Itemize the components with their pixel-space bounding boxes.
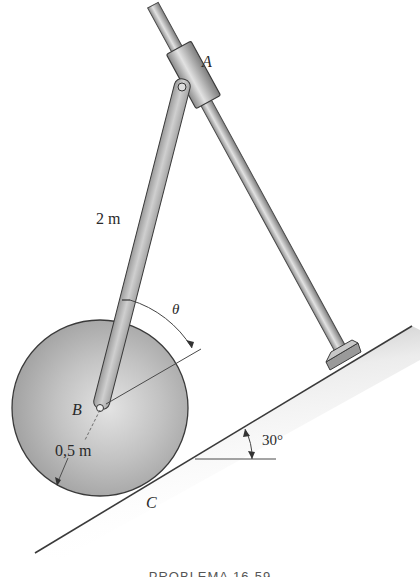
incline-angle-label: 30° <box>262 432 283 448</box>
point-c-label: C <box>146 494 157 511</box>
theta-label: θ <box>172 301 180 317</box>
point-b-label: B <box>72 401 82 418</box>
link-length-label: 2 m <box>96 210 121 227</box>
pin-a-icon <box>178 83 186 91</box>
figure-caption: PROBLEMA 16-59 <box>0 566 420 577</box>
mechanism-diagram: θ 0,5 m 30° A B C 2 m <box>0 0 420 577</box>
radius-label: 0,5 m <box>55 442 92 459</box>
point-a-label: A <box>201 53 212 70</box>
